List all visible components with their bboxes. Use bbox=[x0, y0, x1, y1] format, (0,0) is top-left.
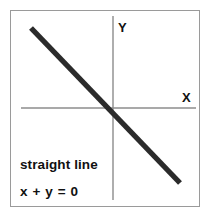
figure-canvas: Y X straight line x + y = 0 bbox=[0, 0, 209, 219]
caption-equation: x + y = 0 bbox=[20, 185, 79, 199]
plot-area bbox=[10, 10, 200, 207]
x-axis-label: X bbox=[182, 91, 191, 104]
plot-svg bbox=[10, 10, 200, 207]
y-axis-label: Y bbox=[118, 21, 127, 34]
caption-title: straight line bbox=[20, 158, 98, 172]
